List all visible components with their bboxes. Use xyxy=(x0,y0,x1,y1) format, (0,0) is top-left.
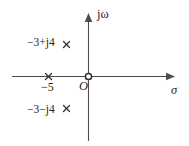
pole-marker-minus3-plus-j4 xyxy=(64,42,70,48)
pole-label-minus5: −5 xyxy=(41,81,54,93)
real-axis xyxy=(12,73,175,81)
pole-zero-plot-canvas xyxy=(0,0,189,146)
pole-marker-minus3-minus-j4 xyxy=(64,106,70,112)
pole-label-minus3-plus-j4: −3+j4 xyxy=(27,37,55,49)
origin-label: O xyxy=(79,80,88,93)
real-axis-label: σ xyxy=(171,84,177,97)
real-axis-arrowhead xyxy=(166,73,175,81)
s-plane-figure: −3+j4 −3−j4 −5 O jω σ xyxy=(0,0,189,146)
imaginary-axis-label: jω xyxy=(97,8,109,21)
pole-label-minus3-minus-j4: −3−j4 xyxy=(27,104,55,116)
imaginary-axis-arrowhead xyxy=(85,13,93,22)
